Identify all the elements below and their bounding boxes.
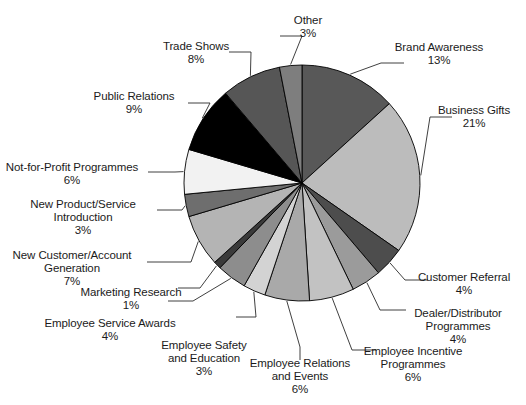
slice-label-new-customer-account-text2: Generation	[13, 262, 132, 275]
slice-label-other-text: Other	[294, 14, 322, 26]
slice-label-not-for-profit-text: Not-for-Profit Programmes	[6, 161, 138, 173]
slice-label-trade-shows-percent: 8%	[163, 53, 229, 66]
leader-line	[236, 292, 256, 317]
slice-label-trade-shows-text: Trade Shows	[163, 40, 229, 52]
leader-line	[147, 241, 198, 262]
slice-label-dealer-distributor-text: Dealer/Distributor	[414, 307, 502, 319]
slice-label-brand-awareness-percent: 13%	[395, 54, 483, 67]
slice-label-customer-referral-percent: 4%	[418, 284, 510, 297]
slice-label-business-gifts-text: Business Gifts	[438, 104, 510, 116]
leader-line	[287, 301, 300, 360]
slice-label-business-gifts: Business Gifts 21%	[438, 104, 510, 130]
slice-label-employee-relations-text2: and Events	[250, 370, 350, 383]
slice-label-employee-relations: Employee Relations and Events 6%	[250, 357, 350, 397]
slice-label-employee-incentive: Employee Incentive Programmes 6%	[364, 345, 463, 385]
slice-label-public-relations-text: Public Relations	[94, 90, 175, 102]
leader-line	[157, 206, 185, 210]
slice-label-new-customer-account-text: New Customer/Account	[13, 249, 132, 261]
slice-label-new-customer-account-percent: 7%	[13, 275, 132, 288]
slice-label-dealer-distributor-text2: Programmes	[414, 320, 502, 333]
slice-label-new-product-service-text: New Product/Service	[30, 198, 135, 210]
slice-label-new-product-service-text2: Introduction	[30, 211, 135, 224]
slice-label-employee-incentive-percent: 6%	[364, 371, 463, 384]
leader-line	[229, 52, 251, 76]
slice-label-marketing-research-percent: 1%	[80, 299, 181, 312]
pie-chart-figure: Other 3% Brand Awareness 13% Business Gi…	[0, 0, 526, 405]
slice-label-brand-awareness: Brand Awareness 13%	[395, 41, 483, 67]
leader-line	[367, 283, 406, 310]
leader-line	[332, 298, 376, 350]
slice-label-public-relations-percent: 9%	[94, 103, 175, 116]
slice-label-dealer-distributor: Dealer/Distributor Programmes 4%	[414, 307, 502, 347]
slice-label-employee-relations-percent: 6%	[250, 383, 350, 396]
slice-label-new-product-service: New Product/Service Introduction 3%	[30, 198, 135, 238]
slice-label-new-customer-account: New Customer/Account Generation 7%	[13, 249, 132, 289]
slice-label-business-gifts-percent: 21%	[438, 117, 510, 130]
slice-label-not-for-profit-percent: 6%	[6, 174, 138, 187]
slice-label-other-percent: 3%	[294, 27, 322, 40]
slice-label-employee-service-awards-text: Employee Service Awards	[44, 317, 175, 329]
slice-label-not-for-profit: Not-for-Profit Programmes 6%	[6, 161, 138, 187]
slice-label-employee-service-awards-percent: 4%	[44, 330, 175, 343]
slice-label-employee-relations-text: Employee Relations	[250, 357, 350, 369]
slice-label-employee-incentive-text: Employee Incentive	[364, 345, 463, 357]
slice-label-brand-awareness-text: Brand Awareness	[395, 41, 483, 53]
slice-label-employee-incentive-text2: Programmes	[364, 358, 463, 371]
slice-label-employee-service-awards: Employee Service Awards 4%	[44, 317, 175, 343]
slice-label-employee-safety-text2: and Education	[161, 352, 246, 365]
slice-label-customer-referral: Customer Referral 4%	[418, 271, 510, 297]
slice-label-employee-safety-percent: 3%	[161, 365, 246, 378]
slice-label-other: Other 3%	[294, 14, 322, 40]
pie-slices-group	[184, 65, 420, 301]
slice-label-new-product-service-percent: 3%	[30, 224, 135, 237]
slice-label-customer-referral-text: Customer Referral	[418, 271, 510, 283]
slice-label-public-relations: Public Relations 9%	[94, 90, 175, 116]
slice-label-employee-safety: Employee Safety and Education 3%	[161, 339, 246, 379]
leader-line	[178, 266, 217, 288]
slice-label-marketing-research: Marketing Research 1%	[80, 286, 181, 312]
slice-label-trade-shows: Trade Shows 8%	[163, 40, 229, 66]
